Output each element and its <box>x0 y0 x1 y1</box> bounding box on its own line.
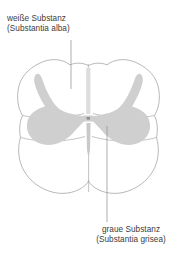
label-white-matter-line2: (Substantia alba) <box>7 24 70 34</box>
central-canal <box>87 117 90 120</box>
posterior-septum-shading <box>86 68 90 114</box>
label-gray-matter: graue Substanz (Substantia grisea) <box>88 225 174 246</box>
label-gray-matter-line2: (Substantia grisea) <box>88 235 174 245</box>
label-white-matter-line1: weiße Substanz <box>7 14 70 24</box>
label-white-matter: weiße Substanz (Substantia alba) <box>7 14 70 35</box>
label-gray-matter-line1: graue Substanz <box>88 225 174 235</box>
